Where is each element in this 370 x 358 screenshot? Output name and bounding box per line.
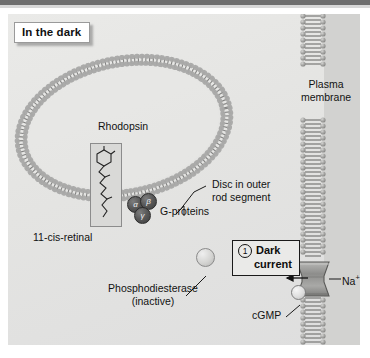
g-proteins-label: G-proteins: [160, 205, 209, 218]
dark-current-callout: 1 Dark current: [232, 240, 300, 276]
sodium-label-charge: +: [355, 273, 359, 282]
retinal-label-cis: cis: [47, 231, 60, 243]
panel-title-chip: In the dark: [14, 22, 90, 43]
phototransduction-dark-figure: In the dark α β γ Rhod: [0, 0, 370, 358]
plasma-membrane-label: Plasma membrane: [290, 78, 362, 103]
cgmp-label: cGMP: [252, 309, 281, 322]
step-number-badge: 1: [238, 244, 252, 258]
extracellular-space: [324, 14, 360, 345]
g-gamma-label: γ: [141, 211, 145, 220]
pde-label-line2: (inactive): [88, 295, 218, 308]
dark-current-line1: 1 Dark: [238, 244, 292, 258]
retinal-inset-box: [90, 143, 122, 227]
top-border-band-light: [0, 5, 370, 8]
retinal-molecule-structure: [91, 144, 119, 224]
g-beta-label: β: [146, 197, 151, 206]
dark-current-word2: current: [254, 258, 292, 271]
rhodopsin-label: Rhodopsin: [98, 120, 148, 133]
g-protein-gamma-subunit: γ: [134, 207, 151, 224]
disc-label-line1: Disc in outer: [212, 178, 270, 191]
disc-label: Disc in outer rod segment: [212, 178, 270, 203]
sodium-label-text: Na: [342, 275, 355, 287]
phosphodiesterase-label: Phosphodiesterase (inactive): [88, 282, 218, 307]
retinal-label-prefix: 11-: [33, 231, 47, 243]
retinal-label-suffix: -retinal: [60, 231, 92, 243]
retinal-label: 11-cis-retinal: [33, 231, 92, 244]
disc-label-line2: rod segment: [212, 191, 270, 204]
pde-label-line1: Phosphodiesterase: [88, 282, 218, 295]
plasma-label-line1: Plasma: [290, 78, 362, 91]
dark-current-word1: Dark: [256, 244, 280, 257]
cgmp-icon: [291, 285, 306, 300]
phosphodiesterase-icon: [196, 248, 215, 267]
plasma-label-line2: membrane: [290, 91, 362, 104]
cgmp-leader-line: [286, 305, 300, 317]
sodium-ion-label: Na+: [342, 272, 360, 287]
